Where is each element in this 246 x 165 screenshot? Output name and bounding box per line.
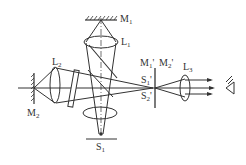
lens-condenser-icon [83, 107, 117, 119]
label-l3: L3 [183, 62, 193, 74]
eye-icon [226, 76, 234, 94]
label-m2: M2 [27, 108, 39, 120]
label-m1-prime: M1' [140, 58, 154, 70]
label-m2-prime: M2' [159, 58, 173, 70]
source-point-icon [99, 132, 103, 136]
optics-diagram: M1 L1 L2 M2 M1' M2' S1' S2' L3 S1 [0, 0, 246, 165]
lens-l2-icon [50, 67, 60, 103]
label-m1: M1 [120, 14, 132, 26]
label-l1: L1 [121, 37, 131, 49]
label-l2: L2 [52, 57, 62, 69]
beam-splitter [89, 45, 117, 78]
label-s2-prime: S2' [141, 91, 152, 103]
output-arrows-icon [207, 78, 215, 96]
label-source: S1 [96, 142, 105, 154]
label-s1-prime: S1' [141, 75, 152, 87]
